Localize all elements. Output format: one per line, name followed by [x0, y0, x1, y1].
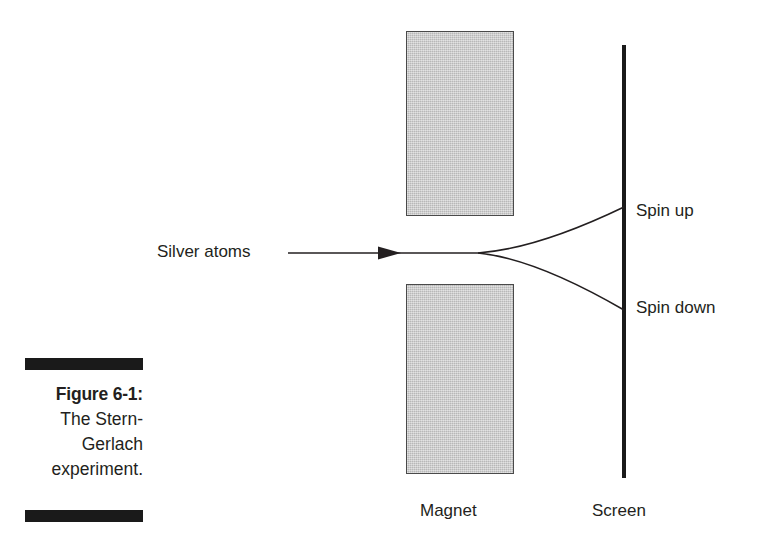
label-screen: Screen	[592, 502, 646, 519]
figure-container: Figure 6-1: The Stern- Gerlach experimen…	[0, 0, 766, 554]
label-spin-down: Spin down	[636, 299, 715, 316]
caption-rule-bottom	[25, 510, 143, 522]
magnet-pole-bottom	[406, 284, 514, 474]
caption-rule-top	[25, 358, 143, 370]
label-spin-up: Spin up	[636, 202, 694, 219]
figure-caption-line-3: experiment.	[8, 457, 143, 482]
figure-number-label: Figure 6-1:	[8, 382, 143, 407]
label-silver-atoms: Silver atoms	[157, 243, 251, 260]
detector-screen	[622, 45, 626, 478]
label-magnet: Magnet	[420, 502, 477, 519]
figure-caption-line-1: The Stern-	[8, 407, 143, 432]
figure-caption-line-2: Gerlach	[8, 432, 143, 457]
magnet-pole-top	[406, 31, 514, 216]
figure-caption: Figure 6-1: The Stern- Gerlach experimen…	[8, 382, 143, 482]
beam-direction-arrow	[378, 247, 401, 260]
